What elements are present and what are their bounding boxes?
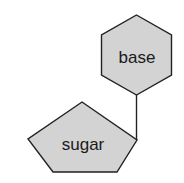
base-label: base — [119, 48, 156, 67]
diagram-canvas: base sugar — [0, 0, 184, 183]
base-node: base — [102, 15, 172, 95]
sugar-node: sugar — [28, 102, 137, 172]
diagram-svg: base sugar — [0, 0, 184, 183]
sugar-label: sugar — [62, 135, 105, 154]
